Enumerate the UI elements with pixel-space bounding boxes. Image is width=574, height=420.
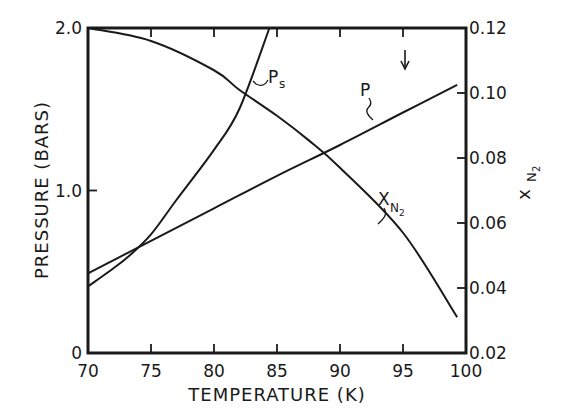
y2-tick-label: 0.08 <box>469 148 507 168</box>
label-xn2-sub: N <box>390 201 399 215</box>
y2-tick-label: 0.02 <box>469 343 507 363</box>
y-tick-label: 0 <box>71 343 82 363</box>
x-axis-title: TEMPERATURE (K) <box>187 384 365 405</box>
arrow-down-icon <box>401 50 409 69</box>
y-tick-label: 1.0 <box>55 181 82 201</box>
y2-axis-title-sub2: 2 <box>531 165 542 172</box>
label-xn2-sub2: 2 <box>399 208 405 218</box>
x-tick-label: 100 <box>450 361 482 381</box>
label-ps-sub: s <box>279 77 285 91</box>
label-p-main: P <box>360 80 370 100</box>
y2-tick-label: 0.04 <box>469 278 507 298</box>
axis-tick-labels: 70758085909510001.02.00.020.040.060.080.… <box>55 18 507 381</box>
y2-tick-label: 0.06 <box>469 213 507 233</box>
y2-tick-label: 0.12 <box>469 18 507 38</box>
y2-axis-title: x N 2 <box>513 165 542 200</box>
y2-axis-title-x: x <box>513 188 534 200</box>
x-tick-label: 95 <box>392 361 414 381</box>
label-ps-main: P <box>268 67 278 87</box>
leader-p <box>367 98 373 120</box>
x-tick-label: 90 <box>329 361 351 381</box>
y-axis-title: PRESSURE (BARS) <box>31 101 52 279</box>
y-tick-label: 2.0 <box>55 18 82 38</box>
curve-ps <box>88 28 269 286</box>
label-xn2-main: X <box>378 189 390 209</box>
label-ps: P s <box>253 67 285 91</box>
leader-ps <box>253 80 268 85</box>
chart: 70758085909510001.02.00.020.040.060.080.… <box>0 0 574 420</box>
x-tick-label: 80 <box>203 361 225 381</box>
x-tick-label: 75 <box>140 361 162 381</box>
x-tick-label: 70 <box>77 361 99 381</box>
x-tick-label: 85 <box>266 361 288 381</box>
y2-tick-label: 0.10 <box>469 83 507 103</box>
label-p: P <box>360 80 373 120</box>
